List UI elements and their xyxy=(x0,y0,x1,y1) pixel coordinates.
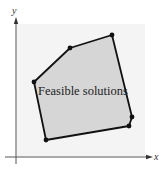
vertex-point xyxy=(127,124,132,129)
y-axis-arrow-icon xyxy=(14,17,18,24)
x-axis-arrow-icon xyxy=(146,155,153,159)
feasible-region-diagram: y x Feasible solutions xyxy=(0,0,162,177)
vertex-point xyxy=(44,138,49,143)
y-axis-label: y xyxy=(11,5,17,16)
region-label: Feasible solutions xyxy=(38,84,128,98)
vertex-point xyxy=(32,80,37,85)
x-axis-label: x xyxy=(153,151,159,162)
vertex-point xyxy=(110,33,115,38)
vertex-point xyxy=(130,115,135,120)
vertex-point xyxy=(68,46,73,51)
